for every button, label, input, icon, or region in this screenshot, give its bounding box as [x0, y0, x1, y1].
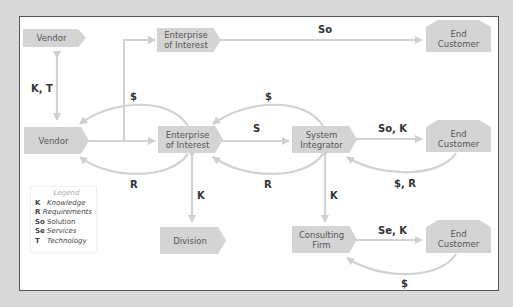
edge-label-si-consulting: K [330, 190, 338, 201]
node-label-line1: Consulting [299, 230, 344, 240]
node-consulting-firm: Consulting Firm [292, 226, 357, 253]
legend-key: Se [35, 227, 47, 237]
edge-label-vendor-vendor: K, T [31, 83, 53, 94]
node-label-line1: System [306, 130, 338, 140]
legend-item: SoSolution [35, 218, 92, 228]
node-label-line1: End [450, 229, 466, 239]
legend-value: Technology [47, 237, 87, 247]
node-enterprise-of-interest-top: Enterprise of Interest [157, 28, 221, 52]
legend-item: RRequirements [35, 208, 92, 218]
legend-key: K [35, 199, 47, 209]
edge-label-si-endcustomer: So, K [378, 123, 407, 134]
edge-label-si-requirements: R [264, 179, 272, 190]
node-label-line1: End [450, 129, 466, 139]
node-end-customer-mid: End Customer [426, 120, 491, 152]
node-label-line2: Integrator [300, 140, 343, 150]
node-label-line2: Customer [438, 39, 479, 49]
node-label-line2: of Interest [164, 40, 208, 50]
legend: Legend KKnowledge RRequirements SoSoluti… [30, 186, 97, 253]
legend-key: T [35, 237, 47, 247]
node-division: Division [160, 227, 226, 254]
node-label-line2: of Interest [166, 140, 210, 150]
node-label: Vendor [39, 136, 69, 146]
node-end-customer-top: End Customer [426, 20, 491, 52]
legend-item: TTechnology [35, 237, 92, 247]
edge-label-vendor-requirements: R [130, 179, 138, 190]
legend-value: Solution [47, 218, 76, 228]
node-label-line2: Customer [438, 239, 479, 249]
legend-item: KKnowledge [35, 199, 92, 209]
node-label: Vendor [37, 33, 67, 43]
legend-title: Legend [41, 189, 92, 199]
node-label-line2: Customer [438, 139, 479, 149]
edge-label-endcustomer-consulting: $ [401, 278, 408, 289]
node-label-line2: Firm [312, 240, 330, 250]
node-label-line1: End [450, 29, 466, 39]
legend-item: SeServices [35, 227, 92, 237]
legend-value: Requirements [43, 208, 92, 218]
edge-label-enterprise-vendor-money: $ [130, 91, 137, 102]
node-vendor-mid: Vendor [24, 127, 89, 154]
edge-label-enterprise-division: K [197, 190, 205, 201]
edge-label-enterprise-endcustomer-top: So [318, 24, 332, 35]
node-enterprise-of-interest-mid: Enterprise of Interest [158, 126, 223, 153]
legend-key: So [35, 218, 47, 228]
edge-label-consulting-endcustomer: Se, K [378, 225, 407, 236]
legend-value: Knowledge [47, 199, 85, 209]
node-vendor-top: Vendor [23, 29, 86, 47]
edge-label-endcustomer-si: $, R [394, 178, 416, 189]
node-end-customer-bottom: End Customer [426, 220, 491, 253]
legend-value: Services [47, 227, 77, 237]
node-label-line1: Enterprise [164, 30, 208, 40]
node-label: Division [173, 236, 207, 246]
legend-key: R [35, 208, 43, 218]
node-system-integrator: System Integrator [292, 126, 357, 153]
edge-label-enterprise-si: S [253, 123, 260, 134]
edge-label-si-enterprise-money: $ [265, 91, 272, 102]
node-label-line1: Enterprise [166, 130, 210, 140]
